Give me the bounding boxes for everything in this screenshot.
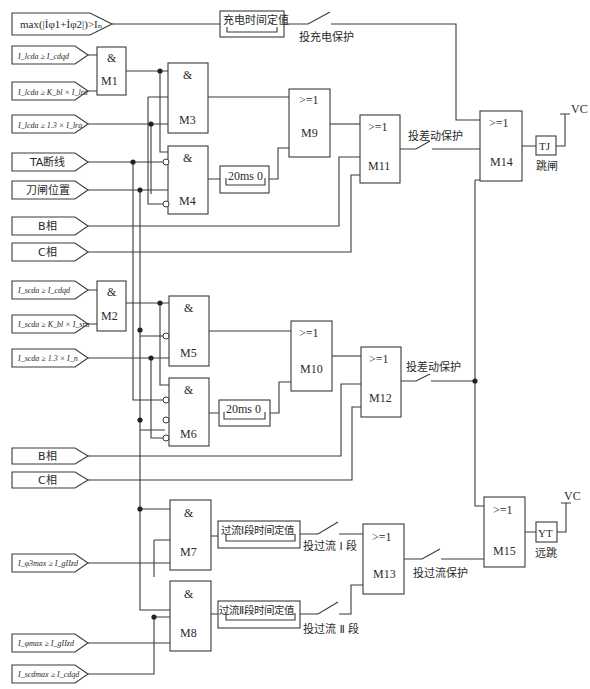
input-m3c-label: I_lcda ≥ 1.3 × I_lra [17, 121, 82, 130]
vc1-label: VC [571, 102, 588, 116]
gate-m6-type: & [184, 383, 194, 397]
timer-delay-2-label: 20ms 0 [226, 402, 261, 416]
input-m5c-label: I_scda ≥ 1.3 × I_n [17, 354, 78, 363]
input-c-phase-2-label: C相 [38, 474, 57, 487]
gate-m2-label: M2 [101, 309, 118, 323]
gate-m2-type: & [107, 285, 117, 299]
input-oc2-label: I_φmax ≥ I_gIIzd [17, 639, 75, 648]
input-ta-break-label: TA断线 [29, 155, 65, 169]
input-oc1-label: I_φ3max ≥ I_gIIzd [17, 559, 79, 568]
yt-label: YT [538, 527, 553, 539]
gate-m5-label: M5 [180, 346, 197, 360]
input-m2b-label: I_scda ≥ K_bl × I_sra [17, 320, 90, 329]
tj-label: TJ [539, 140, 551, 152]
input-b-phase-1-label: B相 [38, 220, 57, 233]
gate-m15-label: M15 [493, 544, 516, 558]
input-tags [12, 13, 112, 683]
input-m2a-label: I_scda ≥ I_cdqd [17, 286, 71, 295]
switch-charge-label: 投充电保护 [299, 30, 354, 44]
gate-m12-type: >=1 [369, 352, 389, 366]
gate-m10-label: M10 [300, 362, 323, 376]
gate-m13-type: >=1 [372, 530, 392, 544]
input-m1b-label: I_lcda ≥ K_bl × I_lra [17, 88, 88, 97]
gate-m7-label: M7 [180, 545, 197, 559]
gate-m1-type: & [107, 51, 117, 65]
gate-m13-label: M13 [373, 567, 396, 581]
input-oc3-label: I_scdmax ≥ I_cdqd [17, 670, 80, 679]
timer-oc2-label: 过流Ⅱ段时间定值 [219, 604, 295, 616]
logic-diagram: max(|İφ1+İφ2|)>Iₙ I_lcda ≥ I_cdqd I_lcda… [0, 0, 590, 689]
gate-m6-label: M6 [180, 427, 197, 441]
gate-m9-type: >=1 [299, 93, 319, 107]
timer-charge-label: 充电时间定值 [223, 13, 289, 27]
gate-m5-type: & [184, 301, 194, 315]
gate-m11-label: M11 [368, 159, 390, 173]
inversion-bubbles [163, 159, 169, 441]
timer-oc1-label: 过流Ⅰ段时间定值 [221, 524, 295, 536]
gate-m9-label: M9 [301, 126, 318, 140]
gate-m12-label: M12 [369, 391, 392, 405]
input-b-phase-2-label: B相 [38, 450, 57, 463]
switch-oc-label: 投过流保护 [413, 566, 468, 580]
input-knife-label: 刀闸位置 [26, 183, 70, 197]
gate-m7-type: & [184, 506, 194, 520]
gate-m8-type: & [184, 587, 194, 601]
gate-m14-type: >=1 [489, 116, 509, 130]
gate-m8-label: M8 [180, 626, 197, 640]
gate-m10-type: >=1 [299, 326, 319, 340]
switch-diff1-label: 投差动保护 [408, 129, 463, 143]
diagram-svg: max(|İφ1+İφ2|)>Iₙ I_lcda ≥ I_cdqd I_lcda… [0, 0, 590, 689]
gate-m3-label: M3 [179, 113, 196, 127]
gate-m11-type: >=1 [368, 120, 388, 134]
timer-delay-1-label: 20ms 0 [228, 169, 263, 183]
tj-caption: 跳闸 [536, 159, 558, 173]
input-c-phase-1-label: C相 [38, 246, 57, 259]
yt-caption: 远跳 [535, 546, 557, 560]
switch-oc2-label: 投过流 Ⅱ 段 [303, 622, 359, 636]
gate-m1-label: M1 [101, 74, 118, 88]
input-m1a-label: I_lcda ≥ I_cdqd [17, 52, 70, 61]
vc2-label: VC [564, 489, 581, 503]
input-charge-label: max(|İφ1+İφ2|)>Iₙ [20, 18, 103, 31]
switch-oc1-label: 投过流 Ⅰ 段 [303, 539, 357, 553]
gate-m15-type: >=1 [493, 503, 513, 517]
gate-m3-type: & [183, 68, 193, 82]
gate-m4-label: M4 [179, 194, 196, 208]
gate-m4-type: & [183, 151, 193, 165]
gate-m14-label: M14 [490, 155, 513, 169]
timers: 充电时间定值 20ms 0 20ms 0 过流Ⅰ段时间定值 过流Ⅱ段时间定值 [218, 11, 300, 628]
switch-diff2-label: 投差动保护 [406, 360, 461, 374]
outputs: TJ 跳闸 VC YT 远跳 VC [522, 102, 588, 560]
